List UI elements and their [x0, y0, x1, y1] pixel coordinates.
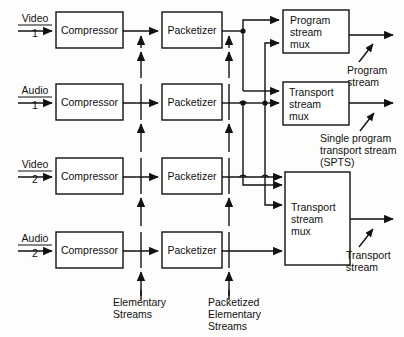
compressor-label-4: Compressor: [61, 244, 119, 256]
spts-output-line-3: (SPTS): [320, 156, 354, 168]
input-label-audio-2: Audio: [22, 232, 49, 244]
mpeg-multiplexing-diagram: Video 1 Compressor Packetizer Audio 1 Co…: [0, 0, 404, 337]
transport-stream-mux-line-3: mux: [291, 225, 312, 237]
packetizer-label-2: Packetizer: [167, 96, 217, 108]
input-index-audio-1: 1: [32, 99, 38, 111]
elementary-streams-line-1: Elementary: [113, 296, 167, 308]
program-stream-mux-line-3: mux: [290, 38, 311, 50]
packetizer-label-3: Packetizer: [167, 170, 217, 182]
input-index-audio-2: 2: [32, 247, 38, 259]
packetizer-label-1: Packetizer: [167, 24, 217, 36]
transport-stream-mux-line-1: Transport: [291, 201, 336, 213]
input-label-video-1: Video: [22, 12, 49, 24]
packetizer-label-4: Packetizer: [167, 244, 217, 256]
input-label-audio-1: Audio: [22, 84, 49, 96]
spts-output-line-1: Single program: [320, 132, 391, 144]
program-stream-output-line-2: stream: [347, 76, 379, 88]
compressor-label-1: Compressor: [61, 24, 119, 36]
transport-stream-mux-spts-line-2: stream: [289, 98, 321, 110]
input-index-video-2: 2: [32, 173, 38, 185]
program-stream-mux-line-1: Program: [290, 14, 331, 26]
input-label-video-2: Video: [22, 158, 49, 170]
elementary-streams-line-2: Streams: [113, 308, 152, 320]
compressor-label-2: Compressor: [61, 96, 119, 108]
packetized-elementary-streams-line-2: Elementary: [208, 308, 262, 320]
transport-stream-mux-line-2: stream: [291, 213, 323, 225]
input-index-video-1: 1: [32, 27, 38, 39]
packetized-elementary-streams-line-1: Packetized: [208, 296, 260, 308]
transport-stream-mux-spts-line-1: Transport: [289, 86, 334, 98]
transport-stream-output-line-2: stream: [346, 261, 378, 273]
program-stream-mux-line-2: stream: [290, 26, 322, 38]
transport-stream-output-line-1: Transport: [346, 249, 391, 261]
spts-output-line-2: transport stream: [320, 144, 397, 156]
packetized-elementary-streams-line-3: Streams: [208, 320, 247, 332]
transport-stream-mux-spts-line-3: mux: [289, 110, 310, 122]
compressor-label-3: Compressor: [61, 170, 119, 182]
program-stream-output-line-1: Program: [347, 64, 388, 76]
